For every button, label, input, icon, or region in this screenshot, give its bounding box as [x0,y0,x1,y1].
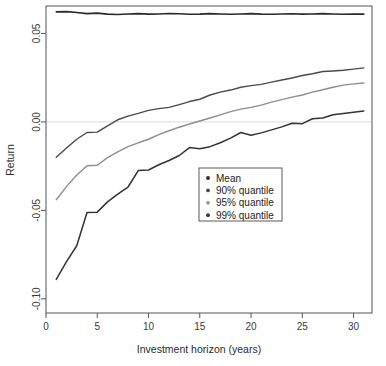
chart-figure: 0.050.00-0.05-0.10 051015202530 Investme… [0,0,386,366]
x-tick-label: 5 [94,321,100,332]
y-tick-label: 0.05 [31,23,42,43]
legend-label: 95% quantile [216,197,274,208]
legend-marker-dot-icon [206,213,210,217]
chart-legend[interactable]: Mean90% quantile95% quantile99% quantile [199,168,282,221]
return-vs-horizon-chart: 0.050.00-0.05-0.10 051015202530 Investme… [0,0,386,366]
y-tick-label: 0.00 [31,112,42,132]
legend-marker-dot-icon [206,176,210,180]
y-tick-label: -0.10 [31,287,42,310]
x-tick-label: 20 [245,321,257,332]
legend-marker-dot-icon [206,201,210,205]
x-tick-label: 0 [43,321,49,332]
legend-marker-dot-icon [206,189,210,193]
legend-label: 99% quantile [216,210,274,221]
x-tick-label: 10 [143,321,155,332]
x-tick-label: 15 [194,321,206,332]
y-axis-title: Return [4,144,16,176]
chart-background [0,0,386,366]
x-tick-label: 25 [297,321,309,332]
x-axis-title: Investment horizon (years) [137,343,261,355]
legend-label: Mean [216,173,241,184]
x-tick-label: 30 [348,321,360,332]
legend-label: 90% quantile [216,185,274,196]
y-tick-label: -0.05 [31,199,42,222]
